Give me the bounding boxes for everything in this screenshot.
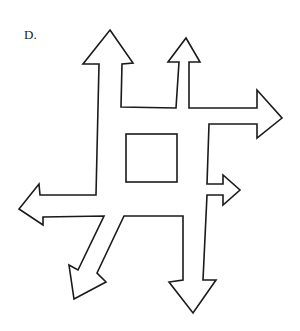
center-square (126, 134, 177, 182)
arrow-figure (0, 0, 300, 331)
